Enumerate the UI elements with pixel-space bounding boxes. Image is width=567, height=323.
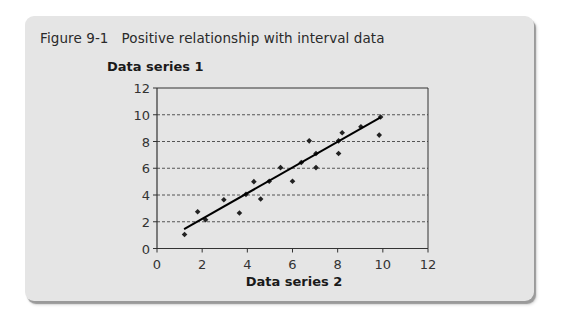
axes [153,88,428,253]
y-tick-label: 10 [133,108,150,123]
data-point-diamond [313,165,319,171]
trendline [184,117,380,229]
x-tick-label: 6 [288,257,296,272]
data-point-diamond [336,151,342,157]
y-tick-label: 4 [142,188,150,203]
data-point-diamond [221,197,227,203]
y-tick-label: 12 [133,81,150,96]
x-tick-label: 10 [375,257,392,272]
x-tick-label: 12 [420,257,437,272]
y-tick-label: 6 [142,161,150,176]
data-point-diamond [290,178,296,184]
data-point-diamond [376,132,382,138]
data-point-diamond [306,138,312,144]
y-tick-label: 8 [142,135,150,150]
x-tick-label: 4 [243,257,251,272]
data-point-diamond [237,210,243,216]
x-axis-label: Data series 2 [246,274,343,289]
data-point-diamond [278,165,284,171]
data-point-diamond [251,179,257,185]
data-point-diamond [258,196,264,202]
data-point-diamond [182,232,188,238]
y-tick-label: 0 [142,242,150,257]
regression-line [184,117,380,229]
data-point-diamond [195,209,201,215]
x-tick-label: 8 [334,257,342,272]
x-axis-label-wrap: Data series 2 [0,274,567,289]
y-tick-label: 2 [142,215,150,230]
x-tick-label: 0 [153,257,161,272]
tick-labels: 024681012024681012 [133,81,436,272]
x-tick-label: 2 [198,257,206,272]
data-point-diamond [339,130,345,136]
